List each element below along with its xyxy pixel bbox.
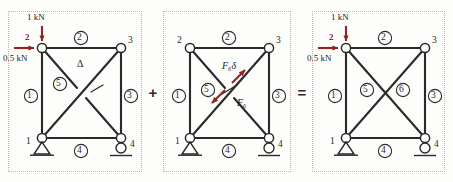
member-2-label: 2 [225,33,230,43]
node-1-label: 1 [26,137,31,147]
node-3-marker [264,43,273,52]
member-1-label: 1 [175,91,180,101]
pin-support-node-1 [334,142,358,155]
member-5-label: 5 [363,85,368,95]
pin-support-node-1 [178,142,202,155]
node-3-label: 3 [432,36,437,46]
panel-primary-structure: 1 kN 0.5 kN 2 3 1 4 Δ 1 2 3 4 5 [8,11,142,172]
horizontal-load-label: 0.5 kN [3,54,28,63]
member-3-label: 3 [275,91,280,101]
node-4-label: 4 [278,140,283,150]
pin-support-node-1 [30,142,54,155]
member-3-label: 3 [127,91,132,101]
node-2-label: 2 [177,36,182,46]
truss-superposition-figure: 1 kN 0.5 kN 2 3 1 4 Δ 1 2 3 4 5 + [0,0,453,182]
panel-redundant-force: 2 3 1 4 F₆δ F₆ 1 2 3 4 5 [163,11,291,172]
node-3-label: 3 [276,36,281,46]
loaded-node-label: 2 [329,33,334,42]
node-4-marker [264,133,273,142]
member-6-upper-part [190,48,225,88]
member-1-label: 1 [27,91,32,101]
gap-delta-label: Δ [77,59,83,69]
node-4-label: 4 [130,140,135,150]
loaded-node-label: 2 [25,33,30,42]
node-4-marker [420,133,429,142]
node-3-marker [420,43,429,52]
member-4-label: 4 [381,146,386,156]
vertical-load-label: 1 kN [27,13,45,22]
horizontal-load-label: 0.5 kN [307,54,332,63]
node-2-marker [185,43,194,52]
member-6-lower-part [86,98,121,138]
vertical-load-label: 1 kN [331,13,349,22]
member-4-label: 4 [77,146,82,156]
node-2-marker [341,43,350,52]
panel-combined-structure: 1 kN 0.5 kN 2 3 1 4 1 2 3 4 5 6 [312,11,445,172]
member-4-label: 4 [225,146,230,156]
node-4-label: 4 [434,140,439,150]
node-3-label: 3 [128,36,133,46]
member-6-label: 6 [399,85,404,95]
truss-members [346,48,425,138]
member-5-label: 5 [56,79,61,89]
node-2-marker [37,43,46,52]
member-5-label: 5 [204,85,209,95]
equals-operator: = [294,85,310,100]
member-2-label: 2 [381,33,386,43]
node-3-marker [116,43,125,52]
gap-tick-mark [91,85,103,92]
roller-support-node-4 [110,143,132,156]
plus-operator: + [145,85,161,100]
redundant-force-elongation-label: F₆δ [222,61,236,71]
member-1-label: 1 [331,91,336,101]
node-1-label: 1 [175,137,180,147]
member-3-label: 3 [431,91,436,101]
node-1-label: 1 [330,137,335,147]
node-4-marker [116,133,125,142]
member-2-label: 2 [77,33,82,43]
roller-support-node-4 [414,143,436,156]
roller-support-node-4 [258,143,280,156]
redundant-force-label: F₆ [237,98,247,108]
